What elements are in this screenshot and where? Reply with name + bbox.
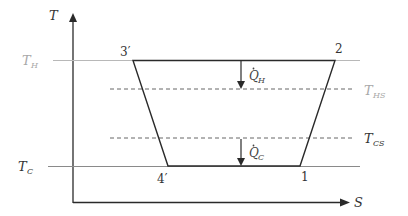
point-1-label: 1 — [301, 170, 309, 184]
qh-arrow-icon — [237, 81, 245, 89]
point-2-label: 2 — [335, 42, 343, 56]
point-4prime-label: 4′ — [157, 172, 168, 186]
qh-dot — [253, 68, 255, 70]
x-axis-label: S — [354, 195, 363, 210]
qc-arrow — [237, 139, 245, 166]
cycle-trapezoid — [133, 61, 335, 167]
tcs-label: T CS — [364, 131, 385, 148]
qc-label: Q C — [249, 145, 264, 162]
qc-arrow-icon — [237, 158, 245, 166]
qh-label: Q H — [249, 68, 266, 85]
qh-arrow — [237, 61, 245, 89]
ths-label: T HS — [364, 83, 386, 100]
y-axis-label: T — [49, 8, 59, 23]
svg-text:HS: HS — [372, 91, 386, 100]
x-axis-arrow-icon — [340, 199, 350, 207]
svg-text:H: H — [30, 61, 39, 70]
qc-dot — [253, 145, 255, 147]
svg-text:C: C — [258, 153, 264, 162]
ts-diagram: T S Q H Q C 3′ 2 4′ 1 T H T — [0, 0, 408, 216]
y-axis-arrow-icon — [69, 13, 77, 22]
svg-text:C: C — [27, 167, 33, 176]
point-3prime-label: 3′ — [120, 45, 131, 59]
x-axis — [73, 199, 350, 207]
svg-text:H: H — [257, 76, 266, 85]
y-axis — [69, 13, 77, 203]
th-label: T H — [22, 53, 39, 70]
tc-label: T C — [18, 159, 33, 176]
svg-text:CS: CS — [373, 139, 385, 148]
